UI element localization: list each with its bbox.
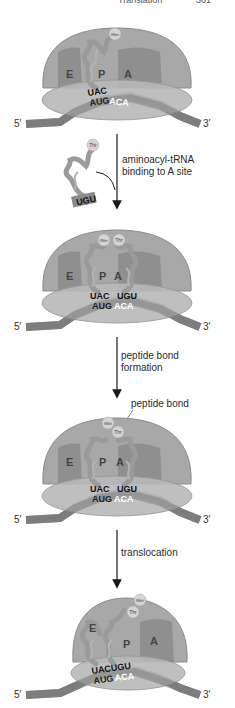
svg-text:fMet: fMet [111, 32, 120, 37]
step-2: peptide bond formation [117, 337, 179, 394]
svg-text:3′: 3′ [203, 689, 211, 700]
svg-text:A: A [114, 270, 122, 282]
svg-text:ACA: ACA [114, 301, 134, 311]
binding-curve-arrow [96, 172, 115, 190]
amino-acid-thr: Thr [114, 429, 122, 435]
svg-text:E: E [66, 270, 73, 282]
ribosome-stage-3: peptide bond fMet Thr E P A UAC UGU AUG … [14, 398, 211, 525]
step-3-label-line1: translocation [121, 547, 178, 558]
diagram-canvas: Translation 361 fMet E P A UAC AUG ACA 5… [0, 0, 235, 708]
svg-text:UGU: UGU [117, 484, 137, 494]
svg-text:ACA: ACA [114, 671, 135, 683]
svg-text:P: P [99, 270, 106, 282]
svg-text:E: E [66, 456, 73, 468]
svg-text:UAC: UAC [90, 484, 110, 494]
step-1: aminoacyl-tRNA binding to A site Thr UGU [66, 134, 195, 208]
five-prime-label: 5′ [14, 118, 22, 129]
ribosome-stage-4: fMet Thr E P A UACUGU AUG ACA 5′ 3′ [14, 594, 211, 700]
header-title: Translation [118, 0, 162, 5]
amino-acid-fmet: fMet [100, 238, 109, 243]
svg-text:A: A [150, 635, 158, 647]
ribosome-stage-2: fMet Thr E P A UAC UGU AUG ACA 5′ 3′ [14, 230, 211, 332]
svg-text:UGU: UGU [117, 291, 137, 301]
svg-text:UAC: UAC [90, 291, 110, 301]
svg-text:P: P [123, 638, 130, 650]
three-prime-label: 3′ [203, 118, 211, 129]
step-2-label-line2: formation [121, 362, 163, 373]
svg-text:3′: 3′ [203, 514, 211, 525]
amino-acid-thr: Thr [129, 609, 137, 615]
site-label-e: E [66, 68, 73, 80]
incoming-trna: Thr UGU [66, 139, 115, 208]
step-1-label-line1: aminoacyl-tRNA [122, 154, 195, 165]
header-page-number: 361 [196, 0, 211, 5]
svg-text:3′: 3′ [203, 321, 211, 332]
ribosome-stage-1: fMet E P A UAC AUG ACA 5′ 3′ [14, 28, 211, 129]
site-label-a: A [124, 68, 132, 80]
svg-text:A: A [116, 456, 124, 468]
step-2-label-line1: peptide bond [121, 350, 179, 361]
page-header: Translation 361 [118, 0, 211, 5]
svg-text:5′: 5′ [14, 689, 22, 700]
svg-text:AUG: AUG [92, 301, 112, 311]
incoming-amino-acid: Thr [89, 142, 97, 148]
svg-text:5′: 5′ [14, 514, 22, 525]
svg-text:AUG: AUG [92, 494, 112, 504]
peptide-bond-callout: peptide bond [131, 398, 189, 409]
codon-a: ACA [109, 96, 130, 108]
step-1-label-line2: binding to A site [122, 166, 192, 177]
amino-acid-fmet: fMet [136, 598, 145, 603]
svg-text:5′: 5′ [14, 321, 22, 332]
step-3: translocation [117, 530, 178, 584]
svg-text:E: E [89, 622, 96, 634]
svg-text:ACA: ACA [114, 494, 134, 504]
site-label-p: P [98, 68, 105, 80]
translation-diagram: Translation 361 fMet E P A UAC AUG ACA 5… [0, 0, 235, 708]
svg-text:P: P [99, 456, 106, 468]
amino-acid-fmet: fMet [104, 421, 113, 426]
amino-acid-thr: Thr [115, 237, 123, 243]
